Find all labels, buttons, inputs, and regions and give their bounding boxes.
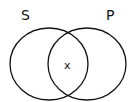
venn-diagram: S P x xyxy=(0,0,133,102)
intersection-mark: x xyxy=(64,59,71,72)
set-s-label: S xyxy=(21,7,30,23)
set-p-label: P xyxy=(106,7,114,23)
set-s-circle xyxy=(10,28,88,100)
set-p-circle xyxy=(48,28,126,100)
